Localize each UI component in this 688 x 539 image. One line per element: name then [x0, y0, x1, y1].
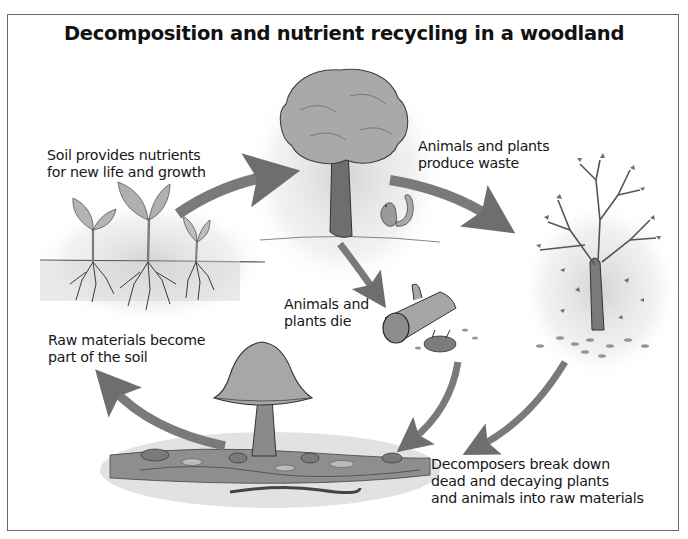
seedlings-illustration	[32, 182, 268, 324]
label-line: Animals and	[284, 296, 369, 313]
label-line: Animals and plants	[418, 138, 549, 155]
arrow-log-to-floor	[412, 362, 458, 440]
stage-label-raw-materials: Raw materials become part of the soil	[48, 332, 205, 366]
stage-label-decomposers: Decomposers break down dead and decaying…	[431, 456, 644, 507]
arrow-bare-tree-to-floor	[480, 362, 565, 446]
diagram-title: Decomposition and nutrient recycling in …	[0, 22, 688, 45]
stage-label-produce-waste: Animals and plants produce waste	[418, 138, 549, 172]
label-line: for new life and growth	[47, 164, 206, 181]
fallen-log-illustration	[383, 284, 478, 352]
label-line: Decomposers break down	[431, 456, 644, 473]
label-line: and animals into raw materials	[431, 490, 644, 507]
stage-label-soil-nutrients: Soil provides nutrients for new life and…	[47, 147, 206, 181]
label-line: Raw materials become	[48, 332, 205, 349]
label-line: dead and decaying plants	[431, 473, 644, 490]
arrow-floor-to-seedlings	[112, 388, 225, 446]
forest-floor-illustration	[100, 342, 440, 508]
label-line: Soil provides nutrients	[47, 147, 206, 164]
label-line: plants die	[284, 313, 369, 330]
label-line: part of the soil	[48, 349, 205, 366]
bare-tree-illustration	[520, 153, 680, 380]
label-line: produce waste	[418, 155, 549, 172]
stage-label-die: Animals and plants die	[284, 296, 369, 330]
